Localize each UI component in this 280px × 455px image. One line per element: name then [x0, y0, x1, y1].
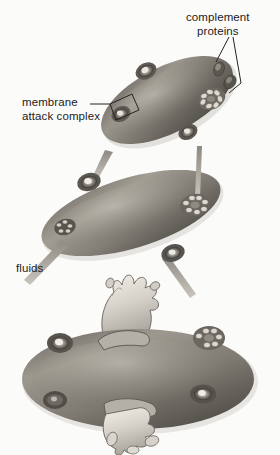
cytoplasm-eruption-bottom [103, 399, 160, 455]
membrane-pore [159, 241, 187, 264]
membrane-pore [43, 391, 67, 409]
membrane-pore [190, 384, 216, 403]
membrane-pore [47, 333, 73, 353]
fluid-arrow [162, 255, 196, 298]
complement-lysis-figure [0, 0, 280, 455]
label-fluids: fluids [16, 262, 43, 276]
membrane-attack-complex-rosette [193, 326, 225, 350]
stage-1-attachment [88, 37, 251, 167]
leader-line-complement-a [216, 37, 229, 62]
stage-3-lysis [22, 275, 258, 455]
label-membrane-attack-complex: membrane attack complex [22, 96, 100, 123]
label-complement-proteins: complement proteins [186, 11, 250, 38]
